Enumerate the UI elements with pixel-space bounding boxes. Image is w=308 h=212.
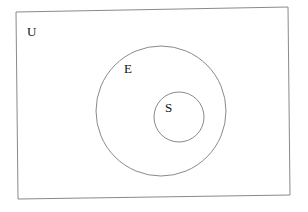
venn-diagram: U E S bbox=[0, 0, 308, 212]
universe-rectangle bbox=[16, 7, 290, 199]
universe-label: U bbox=[27, 24, 37, 39]
set-e-label: E bbox=[124, 61, 132, 76]
set-s-circle bbox=[154, 92, 204, 142]
set-e-circle bbox=[96, 46, 226, 176]
set-s-label: S bbox=[165, 100, 172, 115]
